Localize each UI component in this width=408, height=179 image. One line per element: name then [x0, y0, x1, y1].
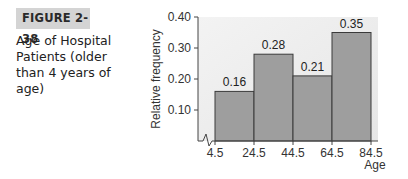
x-tick-label: 64.5 — [320, 146, 344, 160]
histogram-chart: 0.160.280.210.35 0.100.200.300.40 4.524.… — [0, 0, 408, 179]
histogram-bar — [293, 76, 332, 141]
x-tick-label: 24.5 — [242, 146, 266, 160]
x-tick-label: 4.5 — [207, 146, 224, 160]
bar-value-label: 0.28 — [262, 38, 286, 52]
bar-value-label: 0.21 — [301, 60, 325, 74]
y-tick-label: 0.20 — [168, 72, 192, 86]
histogram-bar — [254, 54, 293, 141]
y-ticks: 0.100.200.300.40 — [168, 10, 198, 117]
histogram-bar — [332, 33, 371, 142]
y-tick-label: 0.10 — [168, 103, 192, 117]
x-axis-label: Age — [364, 158, 386, 172]
y-tick-label: 0.30 — [168, 41, 192, 55]
y-axis-label: Relative frequency — [149, 29, 163, 128]
bar-value-label: 0.35 — [340, 17, 364, 31]
x-ticks: 4.524.544.564.584.5 — [207, 141, 383, 160]
x-tick-label: 44.5 — [281, 146, 305, 160]
y-tick-label: 0.40 — [168, 10, 192, 24]
histogram-bar — [215, 91, 254, 141]
bar-value-label: 0.16 — [223, 75, 247, 89]
